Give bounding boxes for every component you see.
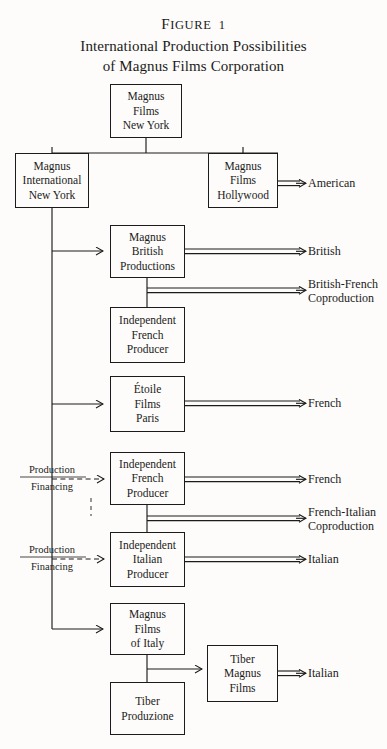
output-line: Coproduction bbox=[308, 519, 376, 533]
financing-tag-italian: Production Financing bbox=[20, 543, 84, 573]
output-line: French-Italian bbox=[308, 505, 376, 519]
box-line: Independent bbox=[119, 538, 176, 553]
box-line: Paris bbox=[136, 411, 159, 426]
box-line: Hollywood bbox=[217, 188, 269, 203]
output-line: Italian bbox=[308, 666, 339, 680]
box-magnus-international-new-york[interactable]: Magnus International New York bbox=[15, 153, 89, 208]
financing-tag-bottom: Financing bbox=[20, 560, 84, 573]
box-magnus-british-productions[interactable]: Magnus British Productions bbox=[110, 225, 185, 278]
box-line: New York bbox=[29, 188, 76, 203]
output-label-american: American bbox=[308, 176, 355, 190]
financing-tag-top: Production bbox=[20, 543, 84, 556]
box-line: Italian bbox=[133, 552, 162, 567]
box-line: Films bbox=[134, 397, 160, 412]
box-line: French bbox=[132, 328, 164, 343]
box-line: Magnus bbox=[129, 607, 166, 622]
connector-lines bbox=[0, 0, 387, 749]
box-line: Producer bbox=[127, 486, 169, 501]
financing-tag-bottom: Financing bbox=[20, 480, 84, 493]
output-label-british-french-coproduction: British-French Coproduction bbox=[308, 277, 378, 305]
output-label-french-etoile: French bbox=[308, 396, 341, 410]
output-label-italian-tiber-magnus: Italian bbox=[308, 666, 339, 680]
box-independent-french-producer-2[interactable]: Independent French Producer bbox=[110, 452, 185, 505]
box-line: of Italy bbox=[131, 636, 165, 651]
output-label-british: British bbox=[308, 244, 341, 258]
financing-tag-french: Production Financing bbox=[20, 463, 84, 493]
box-line: Productions bbox=[120, 259, 175, 274]
box-line: Magnus bbox=[224, 666, 261, 681]
box-line: Films bbox=[134, 622, 160, 637]
box-etoile-films-paris[interactable]: Étoile Films Paris bbox=[110, 376, 185, 432]
box-line: New York bbox=[123, 118, 170, 133]
output-line: French bbox=[308, 472, 341, 486]
box-line: Étoile bbox=[134, 382, 161, 397]
box-line: Magnus bbox=[33, 159, 70, 174]
box-line: Independent bbox=[119, 457, 176, 472]
box-tiber-magnus-films[interactable]: Tiber Magnus Films bbox=[207, 645, 278, 702]
box-magnus-films-of-italy[interactable]: Magnus Films of Italy bbox=[110, 603, 185, 655]
box-line: British bbox=[132, 244, 163, 259]
box-line: Magnus bbox=[129, 230, 166, 245]
box-line: International bbox=[23, 173, 82, 188]
output-label-french-italian-coproduction: French-Italian Coproduction bbox=[308, 505, 376, 533]
output-label-french-independent: French bbox=[308, 472, 341, 486]
box-tiber-produzione[interactable]: Tiber Produzione bbox=[110, 682, 185, 735]
box-line: Producer bbox=[127, 342, 169, 357]
box-line: Producer bbox=[127, 567, 169, 582]
box-line: Films bbox=[229, 681, 255, 696]
box-line: Films bbox=[230, 173, 256, 188]
output-line: British bbox=[308, 244, 341, 258]
output-line: British-French bbox=[308, 277, 378, 291]
box-independent-italian-producer[interactable]: Independent Italian Producer bbox=[110, 532, 185, 587]
box-line: Tiber bbox=[230, 652, 255, 667]
box-line: Produzione bbox=[121, 709, 173, 724]
box-magnus-films-hollywood[interactable]: Magnus Films Hollywood bbox=[208, 153, 278, 208]
box-line: Magnus bbox=[127, 89, 164, 104]
box-magnus-films-new-york[interactable]: Magnus Films New York bbox=[110, 84, 182, 138]
box-line: French bbox=[132, 471, 164, 486]
financing-tag-top: Production bbox=[20, 463, 84, 476]
box-independent-french-producer-1[interactable]: Independent French Producer bbox=[110, 307, 185, 363]
box-line: Films bbox=[133, 104, 159, 119]
output-line: American bbox=[308, 176, 355, 190]
box-line: Magnus bbox=[224, 159, 261, 174]
output-line: Coproduction bbox=[308, 291, 378, 305]
output-label-italian-independent: Italian bbox=[308, 552, 339, 566]
output-line: Italian bbox=[308, 552, 339, 566]
output-line: French bbox=[308, 396, 341, 410]
box-line: Independent bbox=[119, 313, 176, 328]
box-line: Tiber bbox=[135, 694, 160, 709]
figure-diagram: FIGURE 1 International Production Possib… bbox=[0, 0, 387, 749]
